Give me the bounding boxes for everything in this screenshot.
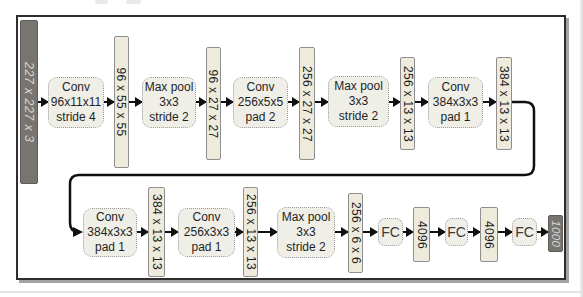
fc-label: FC bbox=[447, 224, 466, 240]
feature-map-size-label: 384 x 13 x 13 bbox=[151, 194, 163, 270]
flow-arrow bbox=[104, 101, 114, 103]
layer-shape-label: 384x3x3 bbox=[433, 95, 478, 110]
layer-op-label: Conv bbox=[96, 210, 124, 225]
layer-shape-label: 96x11x11 bbox=[51, 95, 101, 110]
scan-edge-artifact bbox=[579, 0, 583, 297]
flow-arrow bbox=[498, 231, 512, 233]
flow-arrow bbox=[363, 231, 377, 233]
flow-arrow bbox=[389, 101, 400, 103]
flow-arrow bbox=[483, 101, 496, 103]
feature-map-size-label: 256 x 6 x 6 bbox=[350, 202, 362, 264]
output-tensor-bar: 1000 bbox=[548, 215, 563, 252]
feature-map-size-label: 4096 bbox=[416, 221, 428, 249]
feature-map-bar: 384 x 13 x 13 bbox=[496, 57, 512, 150]
conv3-layer-box: Conv 384x3x3 pad 1 bbox=[428, 77, 483, 128]
flow-arrow bbox=[235, 231, 243, 233]
feature-map-size-label: 96 x 55 x 55 bbox=[116, 68, 128, 137]
feature-map-bar: 96 x 55 x 55 bbox=[114, 36, 129, 168]
cropped-text-artifact bbox=[126, 0, 141, 4]
fc1-layer-box: FC bbox=[378, 218, 403, 246]
output-tensor-label: 1000 bbox=[550, 220, 562, 247]
fc-label: FC bbox=[381, 224, 400, 240]
layer-param-label: stride 2 bbox=[339, 109, 378, 124]
feature-map-bar: 256 x 13 x 13 bbox=[400, 57, 415, 150]
maxpool1-layer-box: Max pool 3x3 stride 2 bbox=[142, 77, 196, 128]
layer-param-label: pad 1 bbox=[440, 110, 470, 125]
feature-map-size-label: 96 x 27 x 27 bbox=[208, 69, 220, 138]
feature-map-bar: 256 x 27 x 27 bbox=[299, 47, 315, 160]
layer-param-label: stride 2 bbox=[149, 110, 188, 125]
input-tensor-bar: 227 x 227 x 3 bbox=[20, 20, 38, 184]
alexnet-architecture-diagram: 227 x 227 x 3 Conv 96x11x11 stride 4 96 … bbox=[0, 0, 583, 297]
layer-op-label: Conv bbox=[441, 80, 469, 95]
feature-map-size-label: 256 x 13 x 13 bbox=[245, 194, 257, 270]
feature-map-bar: 4096 bbox=[413, 207, 430, 262]
layer-op-label: Conv bbox=[246, 80, 274, 95]
layer-op-label: Max pool bbox=[282, 210, 331, 225]
layer-param-label: stride 4 bbox=[56, 110, 95, 125]
flow-arrow bbox=[196, 101, 206, 103]
layer-param-label: pad 1 bbox=[191, 240, 221, 255]
layer-shape-label: 3x3 bbox=[296, 225, 315, 240]
flow-arrow bbox=[129, 101, 142, 103]
layer-op-label: Max pool bbox=[145, 80, 194, 95]
flow-arrow bbox=[221, 101, 233, 103]
layer-shape-label: 256x5x5 bbox=[238, 95, 283, 110]
layer-shape-label: 256x3x3 bbox=[184, 225, 229, 240]
arrowhead-icon bbox=[370, 227, 378, 237]
layer-shape-label: 3x3 bbox=[159, 95, 178, 110]
input-tensor-label: 227 x 227 x 3 bbox=[23, 62, 36, 142]
layer-shape-label: 384x3x3 bbox=[87, 225, 132, 240]
feature-map-bar: 256 x 6 x 6 bbox=[348, 193, 363, 273]
maxpool2-layer-box: Max pool 3x3 stride 2 bbox=[328, 76, 389, 127]
scan-edge-artifact bbox=[0, 291, 583, 293]
feature-map-bar: 96 x 27 x 27 bbox=[206, 47, 221, 160]
flow-arrow bbox=[335, 231, 348, 233]
flow-arrow bbox=[165, 231, 178, 233]
layer-shape-label: 3x3 bbox=[349, 94, 368, 109]
feature-map-bar: 384 x 13 x 13 bbox=[148, 187, 165, 277]
flow-arrow bbox=[537, 231, 548, 233]
cropped-text-artifact bbox=[95, 0, 108, 4]
maxpool3-layer-box: Max pool 3x3 stride 2 bbox=[277, 207, 335, 258]
layer-param-label: stride 2 bbox=[286, 240, 325, 255]
feature-map-size-label: 256 x 27 x 27 bbox=[301, 66, 313, 142]
conv4-layer-box: Conv 384x3x3 pad 1 bbox=[83, 208, 137, 257]
feature-map-size-label: 384 x 13 x 13 bbox=[498, 66, 510, 142]
flow-arrow bbox=[288, 101, 299, 103]
conv1-layer-box: Conv 96x11x11 stride 4 bbox=[48, 77, 104, 128]
conv5-layer-box: Conv 256x3x3 pad 1 bbox=[178, 208, 235, 257]
layer-op-label: Max pool bbox=[334, 79, 383, 94]
layer-param-label: pad 1 bbox=[95, 240, 125, 255]
fc2-layer-box: FC bbox=[445, 218, 468, 246]
layer-op-label: Conv bbox=[192, 210, 220, 225]
fc-label: FC bbox=[515, 224, 534, 240]
flow-arrow bbox=[415, 101, 428, 103]
feature-map-bar: 256 x 13 x 13 bbox=[243, 187, 258, 277]
fc3-layer-box: FC bbox=[512, 218, 537, 246]
flow-arrow bbox=[403, 231, 413, 233]
feature-map-bar: 4096 bbox=[480, 207, 498, 262]
flow-arrow bbox=[137, 231, 148, 233]
flow-arrow bbox=[430, 231, 445, 233]
flow-arrow bbox=[38, 101, 48, 103]
flow-arrow bbox=[315, 101, 328, 103]
flow-arrow bbox=[468, 231, 480, 233]
layer-param-label: pad 2 bbox=[245, 110, 275, 125]
feature-map-size-label: 4096 bbox=[483, 221, 495, 249]
flow-arrow bbox=[258, 231, 277, 233]
feature-map-size-label: 256 x 13 x 13 bbox=[402, 66, 414, 142]
layer-op-label: Conv bbox=[62, 80, 90, 95]
conv2-layer-box: Conv 256x5x5 pad 2 bbox=[233, 77, 288, 128]
